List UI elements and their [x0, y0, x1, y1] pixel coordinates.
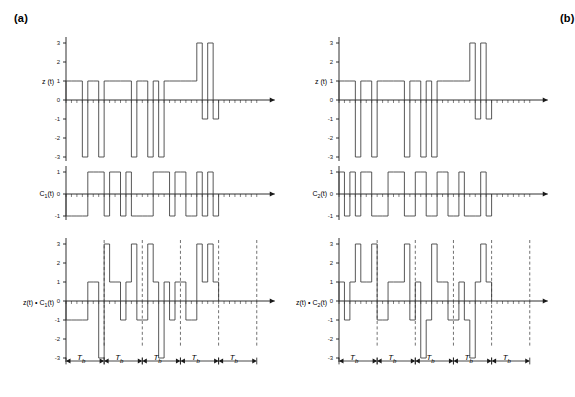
svg-text:-2: -2: [328, 135, 334, 141]
svg-text:1: 1: [330, 279, 334, 285]
svg-text:-1: -1: [328, 317, 334, 323]
svg-text:3: 3: [57, 241, 61, 247]
svg-text:1: 1: [57, 279, 61, 285]
plot-z-a: -3-2-10123: [0, 18, 273, 158]
svg-text:-3: -3: [55, 154, 61, 160]
svg-text:1: 1: [57, 78, 61, 84]
bit-interval-label: Tb: [426, 354, 434, 364]
svg-text:3: 3: [330, 241, 334, 247]
svg-text:-2: -2: [55, 135, 61, 141]
svg-text:0: 0: [57, 298, 61, 304]
y-axis-label-z-a: z (t): [0, 78, 54, 85]
svg-text:-2: -2: [328, 336, 334, 342]
bit-interval-label: Tb: [350, 354, 358, 364]
svg-text:-2: -2: [55, 336, 61, 342]
bit-interval-label: Tb: [230, 354, 238, 364]
svg-text:-1: -1: [55, 116, 61, 122]
svg-text:1: 1: [57, 169, 61, 175]
svg-text:0: 0: [330, 298, 334, 304]
bit-interval-label: Tb: [115, 354, 123, 364]
y-axis-label-z-b: z (t): [273, 78, 327, 85]
bit-interval-label: Tb: [388, 354, 396, 364]
svg-text:2: 2: [57, 260, 61, 266]
svg-text:0: 0: [57, 97, 61, 103]
svg-text:1: 1: [330, 78, 334, 84]
panel-label-b: (b): [560, 12, 575, 24]
panel-a: (a)-3-2-10123z (t)-101C1(t)-3-2-10123z(t…: [0, 0, 273, 397]
y-axis-label-c2-b: C2(t): [273, 190, 327, 200]
bit-interval-label: Tb: [192, 354, 200, 364]
svg-text:0: 0: [330, 191, 334, 197]
svg-text:2: 2: [330, 59, 334, 65]
svg-text:2: 2: [330, 260, 334, 266]
svg-text:-1: -1: [55, 317, 61, 323]
y-axis-label-c1-a: C1(t): [0, 190, 54, 200]
y-axis-label-zc1-a: z(t) • C1(t): [0, 299, 54, 309]
svg-text:-1: -1: [328, 116, 334, 122]
svg-text:1: 1: [330, 169, 334, 175]
svg-text:3: 3: [57, 40, 61, 46]
svg-text:-3: -3: [328, 154, 334, 160]
svg-text:2: 2: [57, 59, 61, 65]
plot-z-b: -3-2-10123: [273, 18, 546, 158]
svg-text:0: 0: [330, 97, 334, 103]
bit-interval-label: Tb: [465, 354, 473, 364]
svg-text:-1: -1: [328, 213, 334, 219]
plot-zc2-b: -3-2-10123: [273, 245, 546, 350]
bit-interval-label: Tb: [503, 354, 511, 364]
panel-b: (b)-3-2-10123z (t)-101C2(t)-3-2-10123z(t…: [273, 0, 546, 397]
svg-text:0: 0: [57, 191, 61, 197]
bit-interval-label: Tb: [153, 354, 161, 364]
svg-text:3: 3: [330, 40, 334, 46]
y-axis-label-zc2-b: z(t) • C2(t): [273, 299, 327, 309]
bit-interval-label: Tb: [77, 354, 85, 364]
svg-text:-1: -1: [55, 213, 61, 219]
plot-zc1-a: -3-2-10123: [0, 245, 273, 350]
